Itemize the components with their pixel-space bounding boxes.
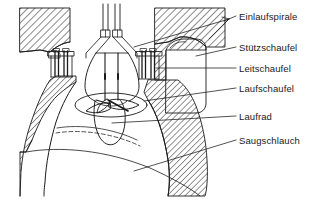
label-einlaufspirale: Einlaufspirale <box>239 11 297 22</box>
label-leitschaufel: Leitschaufel <box>239 63 291 74</box>
label-saugschlauch: Saugschlauch <box>239 135 300 146</box>
figure-canvas: Einlaufspirale Stützschaufel Leitschaufe… <box>0 0 315 204</box>
label-stuetzschaufel: Stützschaufel <box>239 42 297 53</box>
concrete-pier-lower-left <box>20 76 76 196</box>
concrete-pier-lower-right <box>144 80 207 196</box>
stay-vane-column-left <box>48 49 74 78</box>
concrete-wedge-right <box>155 37 206 80</box>
label-laufschaufel: Laufschaufel <box>239 83 294 94</box>
concrete-block-left <box>20 8 70 52</box>
kaplan-turbine-cross-section <box>0 0 315 204</box>
turbine-shaft <box>85 4 139 101</box>
runner-propeller <box>75 93 147 145</box>
label-laufrad: Laufrad <box>239 111 272 122</box>
